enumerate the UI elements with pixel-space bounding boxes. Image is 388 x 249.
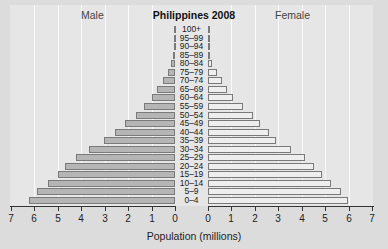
x-tick-label: 7 — [3, 213, 19, 224]
male-bar — [89, 146, 175, 153]
female-label: Female — [275, 9, 310, 21]
age-group-label: 15–19 — [175, 170, 208, 179]
female-bar — [208, 120, 260, 127]
x-tick — [278, 206, 279, 211]
age-group-label: 30–34 — [175, 145, 208, 154]
female-bar — [208, 154, 305, 161]
x-tick — [128, 206, 129, 211]
female-bar — [208, 69, 217, 76]
female-bar — [208, 52, 210, 59]
x-tick-label: 0 — [200, 213, 216, 224]
male-bar — [48, 180, 175, 187]
x-axis-label: Population (millions) — [0, 230, 388, 242]
female-bar — [208, 103, 243, 110]
x-tick-label: 6 — [26, 213, 42, 224]
age-group-label: 70–74 — [175, 76, 208, 85]
male-bar — [125, 120, 175, 127]
male-bar — [58, 171, 175, 178]
male-bar — [152, 94, 175, 101]
x-tick — [105, 206, 106, 211]
male-bar — [157, 86, 175, 93]
female-bar — [208, 94, 233, 101]
female-bar — [208, 163, 314, 170]
age-group-label: 5–9 — [175, 187, 208, 196]
female-bar — [208, 188, 341, 195]
x-tick-label: 5 — [317, 213, 333, 224]
female-bar — [208, 146, 291, 153]
female-bar — [208, 137, 276, 144]
x-tick-label: 7 — [364, 213, 380, 224]
female-bar — [208, 171, 322, 178]
x-tick-label: 3 — [270, 213, 286, 224]
x-tick-label: 5 — [50, 213, 66, 224]
age-group-label: 90–94 — [175, 42, 208, 51]
x-tick — [208, 206, 209, 211]
x-tick — [372, 206, 373, 211]
male-bar — [168, 69, 175, 76]
age-group-label: 45–49 — [175, 119, 208, 128]
female-bar — [208, 180, 331, 187]
x-tick-label: 3 — [97, 213, 113, 224]
x-tick — [58, 206, 59, 211]
female-bar — [208, 26, 210, 33]
female-bar — [208, 197, 348, 204]
x-tick — [34, 206, 35, 211]
x-tick — [231, 206, 232, 211]
male-bar — [115, 129, 175, 136]
male-bar — [136, 112, 175, 119]
x-tick — [175, 206, 176, 211]
age-group-label: 60–64 — [175, 93, 208, 102]
x-tick — [255, 206, 256, 211]
age-group-label: 95–99 — [175, 34, 208, 43]
age-group-label: 50–54 — [175, 111, 208, 120]
age-group-label: 55–59 — [175, 102, 208, 111]
female-bar — [208, 112, 253, 119]
x-tick — [325, 206, 326, 211]
gridline — [34, 5, 35, 206]
male-bar — [76, 154, 175, 161]
female-bar — [208, 129, 269, 136]
age-group-label: 40–44 — [175, 128, 208, 137]
x-tick-label: 4 — [294, 213, 310, 224]
female-bar — [208, 35, 210, 42]
male-bar — [65, 163, 175, 170]
x-tick — [152, 206, 153, 211]
x-tick-label: 2 — [247, 213, 263, 224]
male-bar — [163, 77, 175, 84]
age-group-label: 80–84 — [175, 59, 208, 68]
age-group-label: 0–4 — [175, 196, 208, 205]
age-group-label: 100+ — [175, 25, 208, 34]
x-tick — [302, 206, 303, 211]
male-bar — [29, 197, 175, 204]
chart-title: Philippines 2008 — [0, 9, 388, 21]
age-group-label: 10–14 — [175, 179, 208, 188]
x-tick-label: 6 — [341, 213, 357, 224]
gridline — [349, 5, 350, 206]
x-tick-label: 1 — [223, 213, 239, 224]
x-tick — [81, 206, 82, 211]
age-group-label: 35–39 — [175, 136, 208, 145]
x-tick-label: 4 — [73, 213, 89, 224]
female-bar — [208, 43, 210, 50]
age-group-label: 20–24 — [175, 162, 208, 171]
x-tick — [349, 206, 350, 211]
age-group-label: 25–29 — [175, 153, 208, 162]
female-bar — [208, 86, 227, 93]
gridline — [325, 5, 326, 206]
x-tick — [11, 206, 12, 211]
x-tick-label: 0 — [167, 213, 183, 224]
male-bar — [144, 103, 175, 110]
age-group-label: 85–89 — [175, 51, 208, 60]
x-tick-label: 1 — [144, 213, 160, 224]
male-bar — [104, 137, 175, 144]
female-bar — [208, 77, 222, 84]
age-group-label: 65–69 — [175, 85, 208, 94]
x-tick-label: 2 — [120, 213, 136, 224]
age-group-label: 75–79 — [175, 68, 208, 77]
female-bar — [208, 60, 212, 67]
male-bar — [37, 188, 175, 195]
